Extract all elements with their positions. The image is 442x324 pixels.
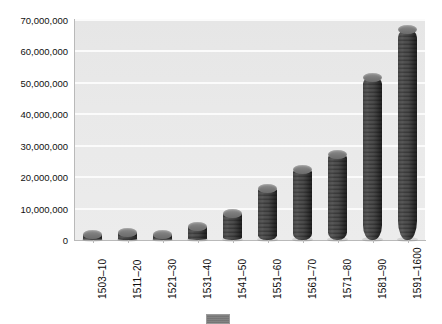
y-axis-tick-label: 0	[0, 235, 68, 246]
bar-top-ellipse	[363, 73, 382, 82]
bar-body	[258, 188, 277, 240]
chart-legend	[0, 310, 442, 324]
chart-container: 010,000,00020,000,00030,000,00040,000,00…	[0, 0, 442, 324]
y-axis-tick-label: 30,000,000	[0, 140, 68, 151]
x-axis-tick-label: 1591–1600	[412, 247, 423, 299]
bar-top-ellipse	[153, 230, 172, 239]
series-swatch	[206, 314, 230, 324]
x-axis-tick-label: 1521–30	[167, 259, 178, 299]
bar-top-ellipse	[188, 222, 207, 231]
y-axis-tick-label: 40,000,000	[0, 109, 68, 120]
bar-top-ellipse	[83, 230, 102, 239]
bar	[180, 20, 215, 240]
x-axis-tick-mark	[128, 240, 129, 243]
x-axis-tick-labels: 1503–101511–201521–301531–401541–501551–…	[75, 243, 425, 303]
bar-series	[75, 20, 425, 240]
x-axis-tick-label: 1561–70	[307, 259, 318, 299]
bar-body	[398, 29, 417, 240]
bar	[390, 20, 425, 240]
x-axis-tick-label: 1531–40	[202, 259, 213, 299]
y-axis-tick-label: 10,000,000	[0, 203, 68, 214]
bar	[110, 20, 145, 240]
bar	[145, 20, 180, 240]
y-axis-tick-label: 20,000,000	[0, 172, 68, 183]
bar	[285, 20, 320, 240]
x-axis-tick-label: 1541–50	[237, 259, 248, 299]
x-axis-tick-label: 1581–90	[377, 259, 388, 299]
y-axis-tick-label: 50,000,000	[0, 77, 68, 88]
y-axis-tick-label: 60,000,000	[0, 46, 68, 57]
x-axis-tick-mark	[163, 240, 164, 243]
bar-body	[363, 77, 382, 240]
x-axis-tick-mark	[408, 240, 409, 243]
x-axis-tick-mark	[93, 240, 94, 243]
y-axis-tick-label: 70,000,000	[0, 15, 68, 26]
bar	[320, 20, 355, 240]
x-axis-tick-mark	[373, 240, 374, 243]
x-axis-tick-mark	[268, 240, 269, 243]
x-axis-tick-label: 1503–10	[97, 259, 108, 299]
x-axis-tick-label: 1571–80	[342, 259, 353, 299]
bar	[75, 20, 110, 240]
bar-top-ellipse	[223, 209, 242, 218]
bar-body	[328, 154, 347, 240]
x-axis-tick-mark	[233, 240, 234, 243]
x-axis-tick-label: 1551–60	[272, 259, 283, 299]
x-axis-tick-mark	[338, 240, 339, 243]
bar	[215, 20, 250, 240]
x-axis-tick-label: 1511–20	[132, 259, 143, 299]
bar-top-ellipse	[328, 150, 347, 159]
x-axis-tick-mark	[198, 240, 199, 243]
bar-top-ellipse	[118, 228, 137, 237]
x-axis-tick-mark	[303, 240, 304, 243]
bar	[250, 20, 285, 240]
bar	[355, 20, 390, 240]
bar-body	[293, 169, 312, 240]
